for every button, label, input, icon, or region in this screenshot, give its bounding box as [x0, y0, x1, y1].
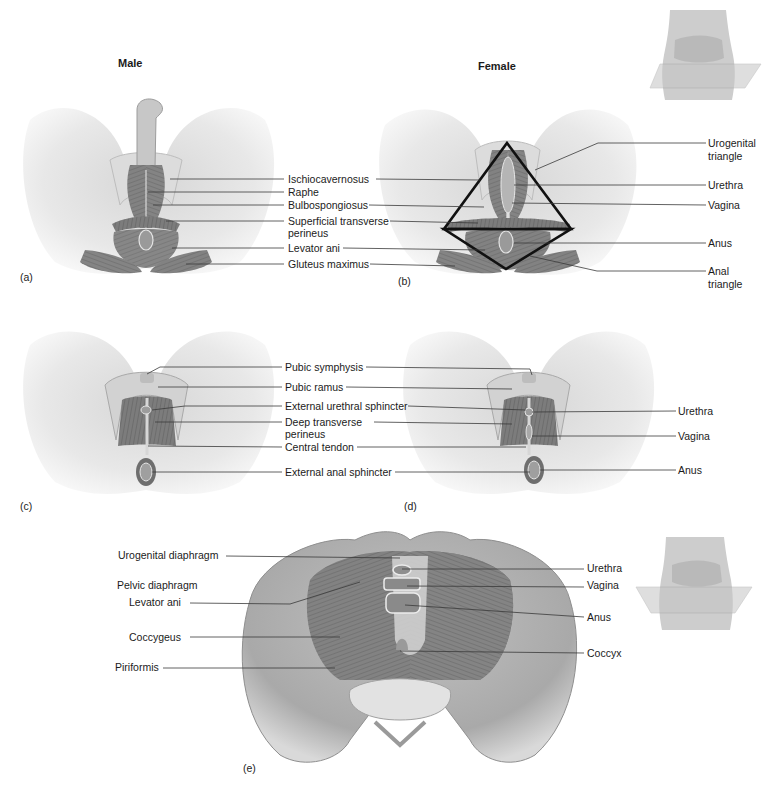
label-vagina-d: Vagina: [678, 430, 710, 442]
label-coccygeus: Coccygeus: [129, 631, 181, 643]
label-vagina-b: Vagina: [708, 199, 740, 211]
panel-a-male-illustration: [23, 99, 274, 274]
label-deep-transverse-perineus: perineus: [285, 428, 325, 440]
label-urogenital-triangle-2: triangle: [708, 150, 742, 162]
label-raphe: Raphe: [288, 186, 319, 198]
label-anus-e: Anus: [587, 611, 611, 623]
label-levator-ani-a: Levator ani: [288, 242, 340, 254]
anatomy-illustration: [0, 0, 773, 793]
panel-b-female-illustration: [379, 110, 636, 275]
label-urogenital-triangle: Urogenital: [708, 137, 756, 149]
female-heading: Female: [478, 60, 516, 72]
label-pelvic-diaphragm: Pelvic diaphragm: [117, 579, 198, 591]
panel-label-a: (a): [20, 271, 33, 283]
label-anus-d: Anus: [678, 464, 702, 476]
inset-torso-bottom: [636, 537, 752, 630]
label-ischiocavernosus: Ischiocavernosus: [288, 173, 369, 185]
label-coccyx: Coccyx: [587, 647, 621, 659]
panel-label-c: (c): [20, 500, 32, 512]
inset-torso-top: [650, 10, 761, 100]
label-pubic-symphysis: Pubic symphysis: [285, 361, 363, 373]
label-superficial-transverse-perineus: perineus: [288, 227, 328, 239]
label-superficial-transverse: Superficial transverse: [288, 215, 389, 227]
label-external-urethral-sphincter: External urethral sphincter: [285, 400, 408, 412]
label-vagina-e: Vagina: [587, 579, 619, 591]
label-urethra-e: Urethra: [587, 562, 622, 574]
label-bulbospongiosus: Bulbospongiosus: [288, 199, 368, 211]
label-deep-transverse: Deep transverse: [285, 416, 362, 428]
label-external-anal-sphincter: External anal sphincter: [285, 466, 392, 478]
panel-label-b: (b): [398, 275, 411, 287]
label-anal-triangle-2: triangle: [708, 278, 742, 290]
label-levator-ani-e: Levator ani: [129, 596, 181, 608]
label-anus-b: Anus: [708, 237, 732, 249]
label-urethra-d: Urethra: [678, 405, 713, 417]
label-central-tendon: Central tendon: [285, 441, 354, 453]
panel-label-e: (e): [243, 762, 256, 774]
panel-label-d: (d): [404, 500, 417, 512]
panel-c-male-deep-illustration: [23, 332, 274, 494]
label-urogenital-diaphragm: Urogenital diaphragm: [118, 549, 218, 561]
panel-e-pelvic-floor-illustration: [242, 532, 576, 762]
label-anal-triangle: Anal: [708, 265, 729, 277]
label-piriformis: Piriformis: [115, 661, 159, 673]
label-pubic-ramus: Pubic ramus: [285, 381, 343, 393]
label-gluteus-maximus: Gluteus maximus: [288, 258, 369, 270]
label-urethra-b: Urethra: [708, 179, 743, 191]
male-heading: Male: [118, 57, 142, 69]
